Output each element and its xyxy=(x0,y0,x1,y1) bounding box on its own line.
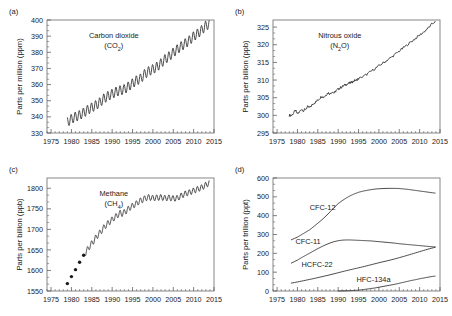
x-tick-label: 2015 xyxy=(432,137,448,146)
y-axis: 330340350360370380390400 xyxy=(31,16,51,138)
plot-frame xyxy=(47,178,214,291)
panel-letter: (a) xyxy=(9,7,19,16)
series-label-hcfc-22: HCFC-22 xyxy=(302,260,333,269)
data-point xyxy=(82,254,85,257)
data-point xyxy=(74,268,77,271)
x-tick-label: 2010 xyxy=(412,137,428,146)
y-axis-title: Parts per billion (ppb) xyxy=(15,198,24,271)
x-tick-label: 2000 xyxy=(145,137,161,146)
x-tick-label: 1975 xyxy=(43,295,59,304)
x-tick-label: 1985 xyxy=(84,295,100,304)
species-name-label: Carbon dioxide xyxy=(89,31,139,40)
x-tick-label: 2000 xyxy=(145,295,161,304)
species-formula-label: (N2O) xyxy=(330,41,349,52)
x-tick-label: 2010 xyxy=(186,295,202,304)
y-tick-label: 100 xyxy=(257,268,269,277)
x-tick-label: 2015 xyxy=(206,295,222,304)
y-tick-label: 1650 xyxy=(27,246,43,255)
x-tick-label: 2015 xyxy=(206,137,222,146)
x-tick-label: 1975 xyxy=(43,137,59,146)
y-tick-label: 315 xyxy=(257,58,269,67)
y-tick-label: 1700 xyxy=(27,225,43,234)
y-tick-label: 330 xyxy=(31,129,43,138)
series-label-cfc-11: CFC-11 xyxy=(295,237,320,246)
x-tick-label: 2000 xyxy=(371,295,387,304)
svg-text:(N2O): (N2O) xyxy=(330,41,349,52)
y-tick-label: 1600 xyxy=(27,266,43,275)
y-tick-label: 500 xyxy=(257,192,269,201)
y-axis-title: Parts per billion (ppb) xyxy=(241,40,250,113)
y-tick-label: 320 xyxy=(257,40,269,49)
panel-letter: (b) xyxy=(235,7,245,16)
species-name-label: Methane xyxy=(99,189,128,198)
y-tick-label: 380 xyxy=(31,48,43,57)
x-tick-label: 1995 xyxy=(125,295,141,304)
x-tick-label: 2005 xyxy=(165,295,181,304)
x-tick-label: 2005 xyxy=(165,137,181,146)
y-tick-label: 0 xyxy=(265,287,269,296)
y-tick-label: 400 xyxy=(257,211,269,220)
x-tick-label: 2000 xyxy=(371,137,387,146)
series-line-cfc-12 xyxy=(291,188,435,239)
data-point xyxy=(66,282,69,285)
x-tick-label: 1975 xyxy=(269,295,285,304)
x-tick-label: 2015 xyxy=(432,295,448,304)
y-tick-label: 390 xyxy=(31,32,43,41)
x-tick-label: 1995 xyxy=(351,137,367,146)
x-tick-label: 1980 xyxy=(289,295,305,304)
panel-b-nitrous-oxide: (b)1975198019851990199520002005201020152… xyxy=(226,0,452,158)
y-tick-label: 400 xyxy=(31,16,43,25)
x-tick-label: 1990 xyxy=(330,295,346,304)
species-name-label: Nitrous oxide xyxy=(318,31,361,40)
y-tick-label: 200 xyxy=(257,249,269,258)
svg-text:(CO2): (CO2) xyxy=(104,41,123,52)
y-tick-label: 300 xyxy=(257,111,269,120)
x-tick-label: 1985 xyxy=(84,137,100,146)
y-tick-label: 1550 xyxy=(27,287,43,296)
y-tick-label: 1800 xyxy=(27,184,43,193)
x-tick-label: 1990 xyxy=(330,137,346,146)
panel-a-carbon-dioxide: (a)1975198019851990199520002005201020153… xyxy=(0,0,226,158)
y-tick-label: 300 xyxy=(257,230,269,239)
y-tick-label: 600 xyxy=(257,174,269,183)
x-tick-label: 2010 xyxy=(186,137,202,146)
series-line-main xyxy=(289,21,435,116)
y-axis: 295300305310315320325 xyxy=(257,23,277,138)
y-axis-title: Parts per million (ppm) xyxy=(15,38,24,115)
x-tick-label: 2005 xyxy=(391,295,407,304)
species-formula-label: (CH4) xyxy=(104,199,123,210)
y-tick-label: 360 xyxy=(31,80,43,89)
x-axis: 197519801985199019952000200520102015 xyxy=(269,129,448,146)
data-point xyxy=(78,261,81,264)
x-tick-label: 2005 xyxy=(391,137,407,146)
x-tick-label: 1995 xyxy=(351,295,367,304)
x-tick-label: 1980 xyxy=(63,137,79,146)
plot-frame xyxy=(273,178,440,291)
y-axis: 0100200300400500600 xyxy=(257,174,277,296)
x-tick-label: 1985 xyxy=(310,137,326,146)
series-label-cfc-12: CFC-12 xyxy=(310,203,336,212)
y-tick-label: 370 xyxy=(31,64,43,73)
panel-letter: (d) xyxy=(235,165,245,174)
x-tick-label: 1975 xyxy=(269,137,285,146)
data-point xyxy=(70,275,73,278)
svg-text:(CH4): (CH4) xyxy=(104,199,123,210)
y-axis-title: Parts per trillion (ppt) xyxy=(241,199,250,270)
panel-letter: (c) xyxy=(9,165,18,174)
y-tick-label: 350 xyxy=(31,96,43,105)
early-data-markers xyxy=(66,254,86,286)
panel-c-methane: (c)1975198019851990199520002005201020151… xyxy=(0,158,226,316)
x-tick-label: 1980 xyxy=(289,137,305,146)
x-axis: 197519801985199019952000200520102015 xyxy=(43,287,222,304)
y-tick-label: 305 xyxy=(257,93,269,102)
x-tick-label: 1990 xyxy=(104,295,120,304)
series-label-hfc-134a: HFC-134a xyxy=(357,275,392,284)
y-tick-label: 340 xyxy=(31,112,43,121)
y-tick-label: 1750 xyxy=(27,204,43,213)
figure-container: (a)1975198019851990199520002005201020153… xyxy=(0,0,452,316)
y-tick-label: 310 xyxy=(257,76,269,85)
x-tick-label: 1990 xyxy=(104,137,120,146)
x-axis: 197519801985199019952000200520102015 xyxy=(269,287,448,304)
panel-d-halocarbons: (d)1975198019851990199520002005201020150… xyxy=(226,158,452,316)
x-tick-label: 1985 xyxy=(310,295,326,304)
